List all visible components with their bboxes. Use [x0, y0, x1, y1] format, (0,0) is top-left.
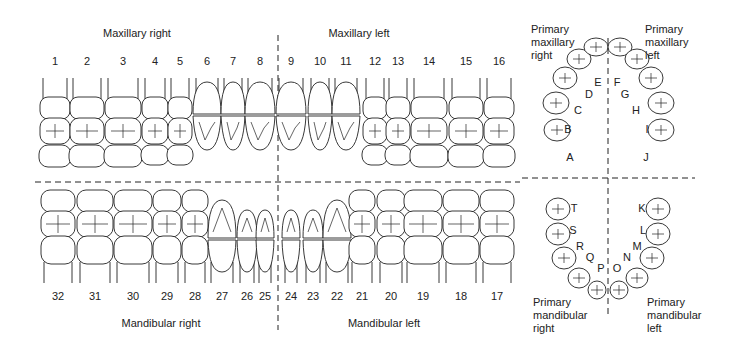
tooth-number-14: 14	[423, 55, 435, 67]
label-primary-mandibular-right: Primary mandibular right	[533, 296, 587, 335]
primary-tooth-N[interactable]	[626, 268, 648, 288]
tooth-number-32: 32	[52, 290, 64, 302]
primary-tooth-C: C	[574, 104, 582, 116]
tooth-number-16: 16	[493, 55, 505, 67]
primary-tooth-L: L	[640, 224, 646, 236]
primary-tooth-C[interactable]	[553, 67, 577, 89]
tooth-number-31: 31	[89, 290, 101, 302]
primary-tooth-B[interactable]	[543, 92, 569, 114]
primary-tooth-N: N	[623, 251, 631, 263]
tooth-number-5: 5	[177, 55, 183, 67]
primary-tooth-S[interactable]	[546, 223, 570, 245]
tooth-27[interactable]	[208, 200, 236, 283]
primary-tooth-I: I	[645, 123, 648, 135]
tooth-number-25: 25	[259, 290, 271, 302]
tooth-6[interactable]	[193, 78, 221, 150]
tooth-number-4: 4	[152, 55, 158, 67]
primary-tooth-D: D	[585, 88, 593, 100]
label-primary-maxillary-right: Primary maxillary right	[531, 23, 574, 62]
tooth-26[interactable]	[237, 210, 257, 283]
tooth-number-22: 22	[331, 290, 343, 302]
tooth-number-1: 1	[52, 55, 58, 67]
tooth-number-10: 10	[314, 55, 326, 67]
primary-tooth-H[interactable]	[639, 67, 663, 89]
tooth-15[interactable]	[448, 78, 484, 167]
tooth-21[interactable]	[349, 190, 375, 283]
tooth-31[interactable]	[77, 190, 113, 283]
tooth-number-27: 27	[216, 290, 228, 302]
tooth-18[interactable]	[443, 190, 479, 283]
tooth-number-11: 11	[340, 55, 351, 67]
tooth-9[interactable]	[276, 78, 306, 150]
tooth-29[interactable]	[153, 190, 181, 283]
tooth-32[interactable]	[41, 190, 75, 283]
primary-tooth-T[interactable]	[546, 198, 570, 220]
primary-tooth-J[interactable]	[648, 119, 674, 141]
primary-tooth-P: P	[597, 262, 604, 274]
label-mandibular-right: Mandibular right	[122, 317, 201, 329]
tooth-number-8: 8	[257, 55, 263, 67]
tooth-number-29: 29	[161, 290, 173, 302]
tooth-number-7: 7	[230, 55, 236, 67]
primary-tooth-B: B	[564, 123, 571, 135]
primary-tooth-R[interactable]	[552, 247, 576, 269]
primary-tooth-K: K	[638, 202, 645, 214]
tooth-3[interactable]	[104, 78, 142, 167]
tooth-4[interactable]	[141, 78, 169, 165]
tooth-22[interactable]	[323, 200, 351, 283]
tooth-1[interactable]	[39, 78, 71, 167]
primary-tooth-M: M	[632, 240, 641, 252]
primary-tooth-E[interactable]	[584, 38, 608, 56]
tooth-23[interactable]	[303, 210, 323, 283]
primary-tooth-R: R	[576, 240, 584, 252]
primary-tooth-S: S	[569, 224, 576, 236]
primary-tooth-Q[interactable]	[568, 268, 590, 288]
primary-tooth-M[interactable]	[640, 247, 664, 269]
primary-tooth-E: E	[594, 76, 601, 88]
tooth-number-17: 17	[491, 290, 503, 302]
tooth-8[interactable]	[245, 78, 275, 150]
tooth-number-15: 15	[460, 55, 472, 67]
tooth-14[interactable]	[410, 78, 448, 167]
tooth-11[interactable]	[332, 78, 360, 150]
primary-tooth-O: O	[613, 262, 622, 274]
tooth-10[interactable]	[308, 78, 332, 150]
tooth-number-30: 30	[127, 290, 139, 302]
tooth-number-21: 21	[356, 290, 368, 302]
primary-tooth-J: J	[643, 151, 649, 163]
label-maxillary-right: Maxillary right	[103, 27, 171, 39]
tooth-number-18: 18	[455, 290, 467, 302]
tooth-number-26: 26	[241, 290, 253, 302]
primary-tooth-T: T	[571, 202, 578, 214]
tooth-16[interactable]	[483, 78, 515, 167]
tooth-number-12: 12	[369, 55, 381, 67]
tooth-number-6: 6	[204, 55, 210, 67]
tooth-24[interactable]	[282, 210, 300, 283]
tooth-28[interactable]	[182, 190, 208, 283]
primary-tooth-F: F	[614, 76, 621, 88]
tooth-number-24: 24	[285, 290, 297, 302]
primary-tooth-L[interactable]	[646, 223, 670, 245]
primary-tooth-K[interactable]	[646, 198, 670, 220]
tooth-20[interactable]	[377, 190, 405, 283]
tooth-number-19: 19	[417, 290, 429, 302]
tooth-number-28: 28	[189, 290, 201, 302]
primary-tooth-I[interactable]	[648, 92, 674, 114]
primary-tooth-H: H	[632, 104, 640, 116]
tooth-13[interactable]	[385, 78, 411, 165]
primary-tooth-O[interactable]	[610, 281, 628, 299]
tooth-19[interactable]	[404, 190, 442, 283]
tooth-number-3: 3	[120, 55, 126, 67]
tooth-number-13: 13	[392, 55, 404, 67]
tooth-number-9: 9	[288, 55, 294, 67]
tooth-30[interactable]	[114, 190, 152, 283]
tooth-number-23: 23	[307, 290, 319, 302]
tooth-17[interactable]	[480, 190, 514, 283]
tooth-2[interactable]	[69, 78, 105, 167]
tooth-25[interactable]	[256, 210, 274, 283]
tooth-12[interactable]	[362, 78, 388, 165]
primary-tooth-P[interactable]	[588, 281, 606, 299]
tooth-number-20: 20	[385, 290, 397, 302]
tooth-7[interactable]	[221, 78, 245, 150]
tooth-5[interactable]	[167, 78, 193, 165]
